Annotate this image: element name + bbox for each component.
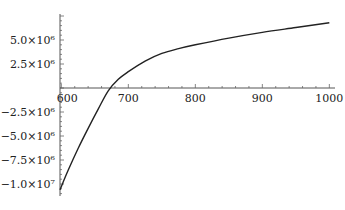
y-axis: 5.0×10⁶2.5×10⁶−2.5×10⁶−5.0×10⁶−7.5×10⁶−1… xyxy=(1,14,64,196)
x-tick-label: 1000 xyxy=(315,92,343,105)
x-tick-label: 900 xyxy=(252,92,273,105)
data-series xyxy=(60,23,329,190)
y-tick-label: −5.0×10⁶ xyxy=(1,130,56,143)
x-tick-label: 800 xyxy=(185,92,206,105)
x-tick-label: 600 xyxy=(57,92,78,105)
y-tick-label: 2.5×10⁶ xyxy=(10,58,56,71)
y-tick-label: −7.5×10⁶ xyxy=(1,154,56,167)
series-line xyxy=(60,23,329,190)
y-tick-label: −2.5×10⁶ xyxy=(1,106,56,119)
x-tick-label: 700 xyxy=(118,92,139,105)
x-axis: 6007008009001000 xyxy=(57,84,344,105)
y-tick-label: 5.0×10⁶ xyxy=(10,34,56,47)
line-chart: 5.0×10⁶2.5×10⁶−2.5×10⁶−5.0×10⁶−7.5×10⁶−1… xyxy=(0,0,345,210)
y-tick-label: −1.0×10⁷ xyxy=(1,178,56,191)
